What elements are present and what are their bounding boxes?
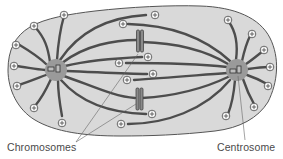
mitotic-spindle-diagram	[0, 0, 283, 159]
right-centrosome	[226, 59, 248, 81]
left-centrosome	[45, 59, 67, 81]
centrosome-label: Centrosome	[217, 141, 275, 153]
chromosomes-label: Chromosomes	[7, 141, 76, 153]
